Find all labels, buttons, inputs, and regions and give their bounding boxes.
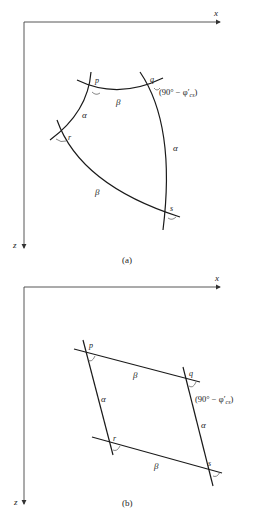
caption-a: (a)	[122, 255, 132, 265]
beta-curve-rs-a	[57, 120, 180, 217]
edge-beta-rs-b: β	[153, 461, 159, 471]
point-r-label-a: r	[68, 133, 72, 142]
angle-label-a: (90° − φ′cs)	[159, 87, 198, 98]
point-q-label-a: q	[150, 75, 154, 84]
angle-arc-r-a	[56, 139, 66, 142]
point-p-label-a: p	[94, 76, 99, 85]
characteristic-mesh-figure: x z p q r s β α α β (90° − φ′cs) (a) x	[0, 0, 259, 529]
edge-alpha-qs-a: α	[173, 143, 178, 153]
x-axis-label-a: x	[213, 8, 218, 18]
angle-arc-p-a	[92, 92, 100, 94]
angle-arc-p-b	[88, 356, 95, 361]
point-s-label-b: s	[208, 459, 211, 468]
point-q-label-b: q	[189, 369, 193, 378]
edge-beta-pq-b: β	[132, 370, 138, 380]
alpha-curve-pr-a	[50, 72, 91, 140]
z-axis-label-a: z	[12, 240, 17, 250]
angle-arc-q-b	[189, 382, 196, 387]
angle-arc-r-b	[113, 446, 120, 451]
edge-beta-rs-a: β	[94, 187, 100, 197]
figure-b: x z p q r s β α α β (90° − φ′cs) (b)	[13, 273, 234, 508]
axes-a: x z	[12, 8, 220, 250]
alpha-line-qs-b	[183, 367, 213, 486]
figure-a: x z p q r s β α α β (90° − φ′cs) (a)	[12, 8, 220, 265]
angle-label-b: (90° − φ′cs)	[195, 394, 234, 405]
point-p-label-b: p	[88, 341, 93, 350]
edge-alpha-qs-b: α	[201, 420, 206, 430]
edge-alpha-pr-a: α	[82, 110, 87, 120]
point-r-label-b: r	[113, 434, 117, 443]
x-axis-label-b: x	[214, 273, 219, 283]
edge-alpha-pr-b: α	[101, 394, 106, 404]
z-axis-label-b: z	[13, 497, 18, 507]
edge-beta-pq-a: β	[115, 97, 121, 107]
angle-arc-s-a	[168, 217, 176, 219]
point-s-label-a: s	[170, 204, 173, 213]
alpha-line-pr-b	[83, 340, 113, 455]
caption-b: (b)	[122, 498, 133, 508]
